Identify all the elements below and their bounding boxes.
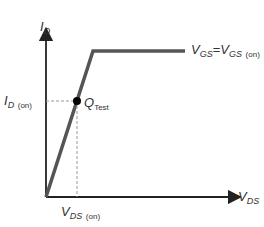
q-test-label: QTest bbox=[84, 96, 109, 112]
q-test-point bbox=[73, 97, 81, 105]
id-on-label: ID (on) bbox=[4, 94, 32, 110]
x-axis-label: VDS bbox=[238, 190, 259, 206]
vds-on-label: VDS (on) bbox=[61, 205, 100, 221]
vgs-curve-label: VGS=VGS (on) bbox=[191, 43, 260, 59]
y-axis-label: ID bbox=[40, 20, 50, 36]
id-vds-curve bbox=[46, 51, 185, 197]
